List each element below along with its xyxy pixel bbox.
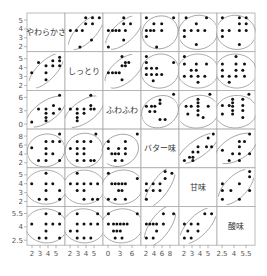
scatter-cell <box>62 207 107 246</box>
data-point <box>190 29 193 32</box>
data-point <box>155 223 158 226</box>
data-point <box>76 112 79 115</box>
data-point <box>210 145 213 148</box>
data-point <box>58 198 61 201</box>
data-point <box>152 29 155 32</box>
data-point <box>150 67 153 70</box>
x-tick-label: 8 <box>168 250 172 258</box>
data-point <box>117 182 120 185</box>
x-tick-label: 5 <box>92 250 96 258</box>
data-point <box>145 73 148 76</box>
data-point <box>91 16 94 19</box>
data-point <box>122 22 125 25</box>
data-point <box>247 93 250 96</box>
data-point <box>238 145 241 148</box>
data-point <box>248 175 251 178</box>
data-point <box>159 189 162 192</box>
y-tick-label: 5 <box>19 55 23 63</box>
data-point <box>89 159 92 162</box>
x-tick-label: 3 <box>38 250 42 258</box>
data-point <box>205 63 208 66</box>
data-point <box>221 75 224 78</box>
y-tick-label: 2 <box>19 159 23 167</box>
data-point <box>115 230 118 233</box>
diagonal-cell: 甘味 <box>179 168 217 207</box>
data-point <box>58 64 61 67</box>
scatter-cell <box>174 128 222 169</box>
variable-label: しっとり <box>68 67 100 76</box>
data-point <box>152 79 155 82</box>
data-point <box>235 63 238 66</box>
data-point <box>124 198 127 201</box>
data-point <box>122 16 125 19</box>
y-tick-label: 5.5 <box>12 210 23 218</box>
data-point <box>221 182 224 185</box>
data-point <box>190 223 193 226</box>
data-point <box>114 182 117 185</box>
scatter-cell <box>138 201 182 251</box>
data-point <box>107 140 110 143</box>
data-point <box>45 223 48 226</box>
diagonal-cell: バター味 <box>141 129 179 168</box>
x-tick-label: 4 <box>84 250 89 258</box>
data-point <box>83 236 86 239</box>
data-point <box>45 119 48 122</box>
data-point <box>126 223 129 226</box>
data-point <box>76 189 79 192</box>
data-point <box>45 159 48 162</box>
data-point <box>238 16 241 19</box>
data-point <box>76 119 79 122</box>
data-point <box>96 223 99 226</box>
data-point <box>243 63 246 66</box>
data-point <box>152 223 155 226</box>
data-point <box>37 159 40 162</box>
x-tick-label: 3 <box>190 250 194 258</box>
data-point <box>124 61 127 64</box>
scatter-cell <box>137 11 182 54</box>
data-point <box>162 212 165 215</box>
data-point <box>94 132 97 135</box>
data-point <box>221 198 224 201</box>
data-point <box>51 182 54 185</box>
data-point <box>231 98 234 101</box>
data-point <box>221 35 224 38</box>
data-point <box>52 112 55 115</box>
data-point <box>96 182 99 185</box>
y-tick-label: 3 <box>19 107 23 115</box>
data-point <box>37 61 40 64</box>
x-tick-label: 5.5 <box>240 250 251 258</box>
data-point <box>191 156 194 159</box>
data-point <box>197 230 200 233</box>
data-point <box>122 223 125 226</box>
y-tick-label: 5 <box>19 17 23 25</box>
data-point <box>183 236 186 239</box>
data-point <box>183 63 186 66</box>
data-point <box>183 55 186 58</box>
data-point <box>76 108 79 111</box>
diagonal-cell: ふわふわ <box>103 90 141 129</box>
data-point <box>183 159 186 162</box>
data-point <box>93 108 96 111</box>
data-point <box>190 75 193 78</box>
y-tick-label: 2 <box>19 82 23 90</box>
data-point <box>45 64 48 67</box>
data-point <box>45 152 48 155</box>
data-point <box>152 236 155 239</box>
data-point <box>58 236 61 239</box>
data-point <box>76 147 79 150</box>
data-point <box>238 43 241 46</box>
y-tick-label: 6 <box>19 142 24 150</box>
data-point <box>185 16 188 19</box>
data-point <box>45 108 48 111</box>
data-point <box>238 22 241 25</box>
data-point <box>148 110 151 113</box>
y-tick-label: 0 <box>19 121 23 129</box>
data-point <box>91 22 94 25</box>
data-point <box>221 63 224 66</box>
data-point <box>203 212 206 215</box>
data-point <box>83 108 86 111</box>
data-point <box>89 223 92 226</box>
data-point <box>83 140 86 143</box>
scatter-cell <box>23 48 68 93</box>
data-point <box>241 98 244 101</box>
